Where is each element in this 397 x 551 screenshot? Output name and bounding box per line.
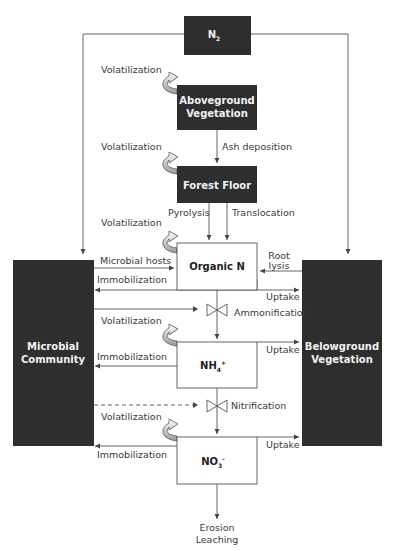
ammonification-label: Ammonification (234, 307, 309, 318)
n2-label: N (208, 29, 216, 40)
nitrogen-cycle-diagram: N2 Aboveground Vegetation Forest Floor O… (0, 0, 397, 551)
volatilization-label: Volatilization (101, 64, 162, 75)
volatilization-arrow-icon (163, 324, 178, 346)
svg-text:Belowground: Belowground (305, 341, 379, 352)
volatilization-label: Volatilization (101, 411, 162, 422)
translocation-label: Translocation (231, 207, 295, 218)
uptake-label: Uptake (266, 439, 300, 450)
svg-text:Organic N: Organic N (189, 261, 245, 272)
svg-text:Vegetation: Vegetation (186, 108, 248, 119)
belowground-vegetation-box: Belowground Vegetation (302, 260, 382, 446)
immobilization-label: Immobilization (97, 449, 167, 460)
volatilization-arrow-icon (163, 419, 178, 441)
organic-n-box: Organic N (177, 243, 257, 290)
microbial-hosts-label: Microbial hosts (100, 255, 171, 266)
uptake-label: Uptake (266, 344, 300, 355)
svg-text:Aboveground: Aboveground (179, 95, 254, 106)
svg-text:Vegetation: Vegetation (311, 354, 373, 365)
immobilization-label: Immobilization (97, 274, 167, 285)
erosion-label: Erosion (200, 522, 235, 533)
n2-box: N2 (184, 16, 251, 55)
aboveground-vegetation-box: Aboveground Vegetation (177, 85, 257, 130)
volatilization-label: Volatilization (101, 315, 162, 326)
volatilization-label: Volatilization (101, 217, 162, 228)
svg-text:NO3-: NO3- (201, 455, 225, 469)
ash-deposition-label: Ash deposition (222, 141, 292, 152)
volatilization-arrow-icon (163, 152, 178, 174)
forest-floor-box: Forest Floor (177, 166, 257, 203)
uptake-label: Uptake (266, 291, 300, 302)
svg-text:Forest Floor: Forest Floor (183, 180, 251, 191)
volatilization-arrow-icon (163, 231, 178, 253)
no3-box: NO3- (177, 437, 257, 484)
volatilization-label: Volatilization (101, 141, 162, 152)
microbial-community-box: Microbial Community (13, 260, 94, 446)
immobilization-label: Immobilization (97, 351, 167, 362)
leaching-label: Leaching (196, 534, 239, 545)
volatilization-arrow-icon (163, 72, 178, 94)
nitrification-label: Nitrification (231, 400, 286, 411)
svg-text:Microbial: Microbial (27, 341, 79, 352)
svg-text:Community: Community (21, 354, 85, 365)
nh4-box: NH4+ (177, 342, 257, 388)
pyrolysis-label: Pyrolysis (168, 207, 210, 218)
uptake-organic-arrow (257, 280, 299, 290)
root-lysis-label: lysis (269, 260, 290, 271)
